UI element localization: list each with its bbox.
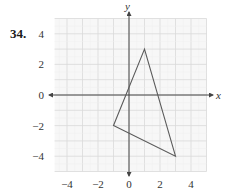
x-axis-label: x: [215, 89, 221, 101]
x-tick-label: −4: [61, 178, 73, 190]
y-tick-label: 4: [39, 28, 45, 40]
coordinate-plane: xy −4−2024420−2−4: [0, 0, 227, 192]
x-tick-label: −2: [92, 178, 104, 190]
x-tick-label: 4: [188, 178, 194, 190]
y-tick-label: 0: [39, 89, 45, 101]
y-tick-label: 2: [39, 58, 45, 70]
x-tick-label: 0: [126, 178, 132, 190]
y-tick-label: −4: [32, 150, 44, 162]
y-tick-label: −2: [32, 120, 44, 132]
x-tick-label: 2: [157, 178, 163, 190]
y-axis-label: y: [124, 0, 130, 12]
